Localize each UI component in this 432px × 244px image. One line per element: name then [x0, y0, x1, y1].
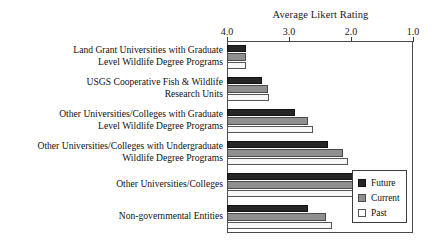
- bar-past-2: [227, 126, 313, 133]
- chart-title: Average Likert Rating: [227, 9, 414, 20]
- chart-legend: Future Current Past: [352, 170, 407, 223]
- x-tick-label-0: 4.0: [211, 26, 243, 37]
- category-label-1: USGS Cooperative Fish & WildlifeResearch…: [4, 76, 223, 99]
- legend-label-past: Past: [371, 208, 387, 218]
- legend-item-current: Current: [358, 190, 406, 205]
- x-tick-label-3: 1.0: [397, 26, 429, 37]
- legend-swatch-past-icon: [358, 209, 366, 217]
- legend-label-current: Current: [371, 193, 400, 203]
- category-label-line: Other Universities/Colleges with Graduat…: [4, 108, 223, 120]
- category-label-line: Other Universities/Colleges: [4, 178, 223, 190]
- bar-future-4: [227, 173, 369, 180]
- legend-item-future: Future: [358, 175, 406, 190]
- bar-current-3: [227, 149, 343, 156]
- category-label-line: Wildlife Degree Programs: [4, 152, 223, 164]
- legend-label-future: Future: [371, 178, 395, 188]
- category-label-line: USGS Cooperative Fish & Wildlife: [4, 76, 223, 88]
- category-label-2: Other Universities/Colleges with Graduat…: [4, 108, 223, 131]
- bar-current-1: [227, 85, 268, 92]
- category-label-line: Land Grant Universities with Graduate: [4, 44, 223, 56]
- category-label-line: Research Units: [4, 88, 223, 100]
- bar-past-3: [227, 158, 348, 165]
- category-label-5: Non-governmental Entities: [4, 210, 223, 222]
- bar-future-0: [227, 45, 246, 52]
- x-tick-label-2: 2.0: [335, 26, 367, 37]
- category-label-line: Level Wildlife Degree Programs: [4, 120, 223, 132]
- legend-item-past: Past: [358, 205, 406, 220]
- category-label-0: Land Grant Universities with GraduateLev…: [4, 44, 223, 67]
- bar-current-0: [227, 53, 246, 60]
- bar-future-1: [227, 77, 262, 84]
- category-label-line: Level Wildlife Degree Programs: [4, 56, 223, 68]
- bar-current-2: [227, 117, 308, 124]
- category-label-line: Other Universities/Colleges with Undergr…: [4, 140, 223, 152]
- bar-current-4: [227, 181, 363, 188]
- legend-swatch-current-icon: [358, 194, 366, 202]
- legend-swatch-future-icon: [358, 179, 366, 187]
- bar-future-2: [227, 109, 295, 116]
- category-label-line: Non-governmental Entities: [4, 210, 223, 222]
- bar-past-1: [227, 94, 269, 101]
- likert-rating-bar-chart: Average Likert Rating 4.03.02.01.0 Land …: [0, 0, 432, 244]
- x-tick-label-1: 3.0: [273, 26, 305, 37]
- category-label-3: Other Universities/Colleges with Undergr…: [4, 140, 223, 163]
- bar-future-3: [227, 141, 328, 148]
- bar-past-0: [227, 62, 246, 69]
- category-label-4: Other Universities/Colleges: [4, 178, 223, 190]
- bar-past-5: [227, 222, 332, 229]
- bar-current-5: [227, 213, 326, 220]
- bar-future-5: [227, 205, 308, 212]
